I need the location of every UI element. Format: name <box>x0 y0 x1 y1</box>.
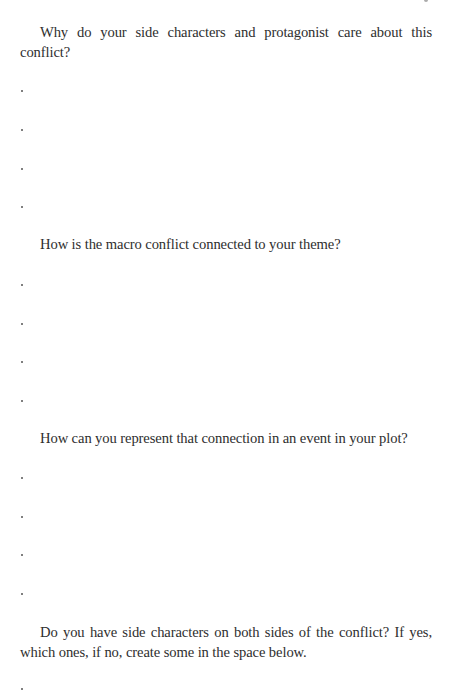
answer-line-marker[interactable] <box>21 168 23 170</box>
answer-line-marker[interactable] <box>21 688 23 690</box>
question-3: How can you represent that connection in… <box>20 428 432 448</box>
page-edge-mark <box>424 0 428 2</box>
question-2: How is the macro conflict connected to y… <box>20 234 432 254</box>
answer-line-marker[interactable] <box>21 323 23 325</box>
answer-line-marker[interactable] <box>21 206 23 208</box>
answer-line-marker[interactable] <box>21 90 23 92</box>
answer-line-marker[interactable] <box>21 361 23 363</box>
answer-line-marker[interactable] <box>21 516 23 518</box>
answer-line-marker[interactable] <box>21 554 23 556</box>
answer-line-marker[interactable] <box>21 129 23 131</box>
answer-line-marker[interactable] <box>21 593 23 595</box>
answer-line-marker[interactable] <box>21 284 23 286</box>
answer-line-marker[interactable] <box>21 477 23 479</box>
answer-line-marker[interactable] <box>21 400 23 402</box>
question-1: Why do your side characters and protagon… <box>20 22 432 62</box>
question-4: Do you have side characters on both side… <box>20 622 432 662</box>
